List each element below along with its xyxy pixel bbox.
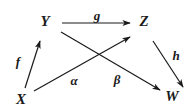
node-z: Z bbox=[139, 14, 148, 29]
commutative-diagram: Y Z X W g f α β h bbox=[0, 0, 194, 112]
node-w: W bbox=[165, 89, 178, 104]
label-h: h bbox=[172, 49, 179, 62]
label-f: f bbox=[16, 55, 20, 68]
node-x: X bbox=[16, 92, 26, 107]
arrow-f bbox=[25, 41, 40, 88]
node-y: Y bbox=[40, 14, 49, 29]
label-alpha: α bbox=[70, 74, 77, 87]
label-g: g bbox=[94, 9, 101, 22]
label-beta: β bbox=[114, 73, 121, 86]
